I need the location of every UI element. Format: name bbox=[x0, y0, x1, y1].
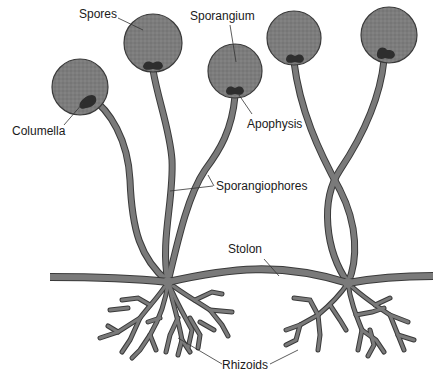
label-spores: Spores bbox=[79, 8, 117, 20]
label-sporangium: Sporangium bbox=[190, 10, 255, 22]
junction-right bbox=[343, 278, 353, 288]
stolon bbox=[50, 269, 433, 283]
rhizoids-right bbox=[286, 283, 414, 356]
label-apophysis: Apophysis bbox=[247, 118, 302, 130]
label-rhizoids: Rhizoids bbox=[222, 359, 268, 371]
label-stolon: Stolon bbox=[228, 243, 262, 255]
rhizoids-left bbox=[100, 282, 232, 358]
junction-left bbox=[163, 277, 173, 287]
label-sporangiophores: Sporangiophores bbox=[216, 180, 307, 192]
label-columella: Columella bbox=[12, 125, 65, 137]
